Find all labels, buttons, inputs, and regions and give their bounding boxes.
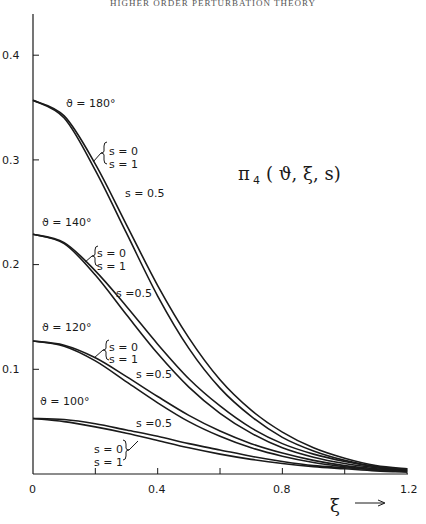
x-tick-label-0.4: 0.4 [148, 483, 166, 496]
label-s0-180: s = 0 [109, 145, 138, 158]
x-tick-label-0.8: 0.8 [273, 483, 291, 496]
curve [33, 234, 407, 470]
x-tick-label-1.2: 1.2 [400, 483, 418, 496]
label-theta-180: ϑ = 180° [66, 97, 116, 110]
x-axis-label: ξ [330, 495, 340, 516]
function-subscript: 4 [253, 174, 260, 187]
y-tick-label-0.4: 0.4 [2, 49, 20, 62]
label-s05-120: s =0.5 [136, 368, 172, 381]
label-s05-140: s =0.5 [116, 287, 152, 300]
label-s1-120: s = 1 [109, 353, 138, 366]
function-arguments: ( ϑ, ξ, s) [266, 163, 341, 184]
label-theta-120: ϑ = 120° [42, 321, 92, 334]
label-s1-140: s = 1 [97, 260, 126, 273]
y-tick-label-0.1: 0.1 [2, 363, 20, 376]
x-tick-label-0: 0 [29, 483, 36, 496]
label-s1-180: s = 1 [109, 158, 138, 171]
label-s0-100: s = 0 [94, 443, 123, 456]
label-s0-140: s = 0 [97, 247, 126, 260]
label-s05-100: s =0.5 [136, 417, 172, 430]
curve [33, 234, 407, 471]
label-theta-140: ϑ = 140° [42, 216, 92, 229]
chart-canvas: 0.1 0.2 0.3 0.4 0 0.4 0.8 1.2 ϑ = 180° ϑ… [0, 0, 426, 524]
s-labels-100: s =0.5 s = 0 s = 1 [94, 417, 172, 469]
s-labels-180: s = 0 s = 1 s = 0.5 [93, 142, 164, 200]
function-symbol-pi: π [238, 163, 250, 184]
curve [33, 100, 407, 470]
label-s1-100: s = 1 [94, 456, 123, 469]
label-s05-180: s = 0.5 [125, 187, 164, 200]
y-tick-label-0.3: 0.3 [2, 154, 20, 167]
label-theta-100: ϑ = 100° [40, 395, 90, 408]
y-tick-label-0.2: 0.2 [2, 258, 20, 271]
curves [33, 100, 407, 472]
function-label: π 4 ( ϑ, ξ, s) [238, 163, 341, 187]
